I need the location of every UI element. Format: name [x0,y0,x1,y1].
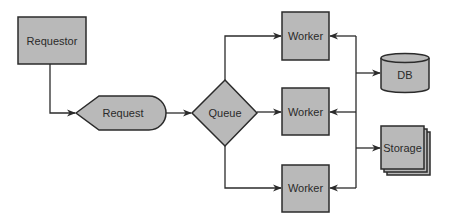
db-label: DB [397,69,412,81]
flowchart-canvas: Requestor Request Queue Worker Worker Wo… [0,0,454,220]
node-requestor[interactable]: Requestor [18,17,86,64]
requestor-label: Requestor [27,35,78,47]
edge-queue-to-worker-3 [225,146,281,188]
node-storage[interactable]: Storage [381,126,430,175]
worker-2-label: Worker [288,106,324,118]
node-worker-3[interactable]: Worker [282,165,329,212]
queue-label: Queue [208,107,241,119]
node-request[interactable]: Request [76,96,166,130]
edge-requestor-to-request [50,64,75,113]
storage-label: Storage [383,142,422,154]
edge-queue-to-worker-1 [225,36,281,80]
node-db[interactable]: DB [381,54,429,93]
request-label: Request [103,107,144,119]
db-cylinder-top [381,54,429,63]
worker-1-label: Worker [288,30,324,42]
node-worker-1[interactable]: Worker [282,12,329,60]
node-queue[interactable]: Queue [192,80,257,146]
node-worker-2[interactable]: Worker [282,88,329,135]
worker-3-label: Worker [288,182,324,194]
